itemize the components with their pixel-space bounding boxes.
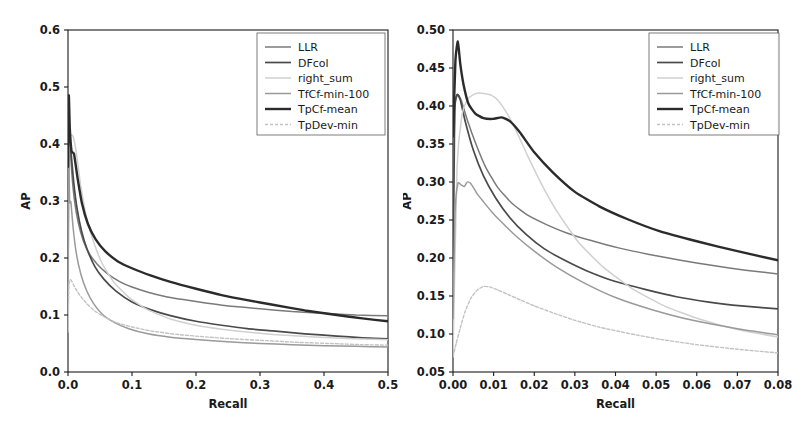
y-tick-label: 0.30: [417, 175, 445, 189]
legend-label-dfcol: DFcol: [298, 57, 329, 70]
x-tick-label: 0.00: [439, 378, 467, 392]
x-tick-label: 0.07: [723, 378, 751, 392]
y-tick-label: 0.0: [40, 365, 60, 379]
chart-panel-left: 0.00.10.20.30.40.50.60.00.10.20.30.40.5R…: [0, 0, 403, 439]
x-tick-label: 0.3: [250, 378, 270, 392]
y-tick-label: 0.50: [417, 23, 445, 37]
legend-label-tpdev-min: TpDev-min: [689, 119, 750, 132]
y-tick-label: 0.10: [417, 327, 445, 341]
series-line-dfcol: [68, 131, 388, 339]
x-tick-label: 0.2: [186, 378, 206, 392]
legend: LLRDFcolright_sumTfCf-min-100TpCf-meanTp…: [257, 33, 385, 135]
y-tick-label: 0.40: [417, 99, 445, 113]
x-tick-label: 0.06: [683, 378, 711, 392]
figure-root: 0.00.10.20.30.40.50.60.00.10.20.30.40.5R…: [0, 0, 806, 439]
y-tick-label: 0.2: [40, 251, 60, 265]
legend-label-tfcf-min-100: TfCf-min-100: [689, 88, 761, 101]
right-plot-svg: 0.050.100.150.200.250.300.350.400.450.50…: [403, 0, 806, 439]
x-tick-label: 0.08: [764, 378, 792, 392]
y-tick-label: 0.25: [417, 213, 445, 227]
x-axis-title: Recall: [596, 397, 635, 411]
y-axis-title: AP: [403, 192, 414, 209]
legend-label-tfcf-min-100: TfCf-min-100: [297, 88, 369, 101]
legend-label-right-sum: right_sum: [690, 72, 745, 85]
x-axis-title: Recall: [208, 397, 247, 411]
legend-label-tpdev-min: TpDev-min: [297, 119, 358, 132]
legend: LLRDFcolright_sumTfCf-min-100TpCf-meanTp…: [649, 33, 779, 135]
y-tick-label: 0.35: [417, 137, 445, 151]
x-tick-label: 0.5: [378, 378, 398, 392]
x-tick-label: 0.01: [479, 378, 507, 392]
legend-label-llr: LLR: [690, 41, 710, 54]
series-line-llr: [68, 134, 388, 316]
y-tick-label: 0.15: [417, 289, 445, 303]
y-tick-label: 0.6: [40, 23, 60, 37]
y-tick-label: 0.4: [40, 137, 60, 151]
series-line-tpdev-min: [68, 280, 388, 346]
y-tick-label: 0.3: [40, 194, 60, 208]
y-tick-label: 0.5: [40, 80, 60, 94]
y-tick-label: 0.05: [417, 365, 445, 379]
series-line-right-sum: [68, 135, 388, 340]
legend-label-right-sum: right_sum: [298, 72, 353, 85]
x-tick-label: 0.1: [122, 378, 142, 392]
x-tick-label: 0.4: [314, 378, 334, 392]
y-tick-label: 0.45: [417, 61, 445, 75]
y-axis-title: AP: [19, 192, 33, 209]
legend-label-tpcf-mean: TpCf-mean: [297, 103, 358, 116]
legend-label-llr: LLR: [298, 41, 318, 54]
left-plot-svg: 0.00.10.20.30.40.50.60.00.10.20.30.40.5R…: [0, 0, 403, 439]
y-tick-label: 0.20: [417, 251, 445, 265]
x-tick-label: 0.05: [642, 378, 670, 392]
legend-label-dfcol: DFcol: [690, 57, 721, 70]
legend-label-tpcf-mean: TpCf-mean: [689, 103, 750, 116]
x-tick-label: 0.04: [601, 378, 629, 392]
series-line-tfcf-min-100: [453, 182, 778, 335]
y-tick-label: 0.1: [40, 308, 60, 322]
chart-panel-right: 0.050.100.150.200.250.300.350.400.450.50…: [403, 0, 806, 439]
x-tick-label: 0.02: [520, 378, 548, 392]
x-tick-label: 0.03: [561, 378, 589, 392]
x-tick-label: 0.0: [58, 378, 78, 392]
